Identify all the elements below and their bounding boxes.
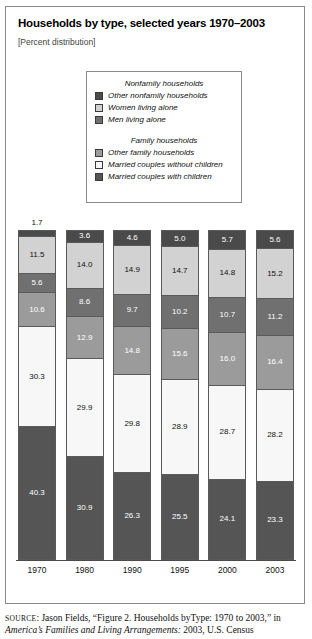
bar-segment-value: 29.8 <box>124 420 140 428</box>
bar-segment[interactable]: 15.6 <box>162 329 198 380</box>
bar-column-2000[interactable]: 5.714.810.716.028.724.1 <box>208 230 246 560</box>
bar-segment[interactable]: 16.4 <box>257 336 293 390</box>
stacked-bar[interactable]: 4.614.99.714.829.826.3 <box>113 230 151 560</box>
chart-plot-area: 1.711.55.610.630.340.33.614.08.612.929.9… <box>18 212 294 562</box>
bar-segment[interactable]: 5.0 <box>162 231 198 247</box>
bar-segment[interactable]: 5.6 <box>257 231 293 249</box>
bar-segment[interactable]: 4.6 <box>114 231 150 246</box>
bar-segment[interactable]: 9.7 <box>114 295 150 327</box>
bar-segment-value: 11.5 <box>30 251 45 259</box>
bar-column-1980[interactable]: 3.614.08.612.929.930.9 <box>66 230 104 560</box>
bar-segment-value: 14.9 <box>124 266 140 274</box>
bar-segment[interactable]: 10.7 <box>209 298 245 333</box>
bar-segment-value: 14.7 <box>172 267 188 275</box>
bar-segment[interactable]: 28.7 <box>209 386 245 480</box>
legend-item-label: Women living alone <box>108 103 178 113</box>
legend-item-label: Other family households <box>108 148 194 158</box>
bar-segment[interactable]: 26.3 <box>114 473 150 559</box>
source-note: SOURCE: Jason Fields, “Figure 2. Househo… <box>5 613 307 636</box>
legend-swatch-icon <box>95 173 103 181</box>
bar-segment[interactable]: 25.5 <box>162 475 198 559</box>
bar-segment[interactable]: 10.6 <box>19 293 55 328</box>
figure-subtitle: [Percent distribution] <box>18 37 95 47</box>
stacked-bar[interactable]: 11.55.610.630.340.3 <box>18 230 56 560</box>
bar-segment[interactable]: 5.7 <box>209 231 245 250</box>
source-publication-title: America’s Families and Living Arrangemen… <box>5 625 181 635</box>
bar-segment[interactable]: 29.8 <box>114 375 150 473</box>
bar-segment-value: 28.7 <box>220 428 236 436</box>
bar-segment[interactable]: 30.9 <box>67 457 103 558</box>
bar-segment[interactable]: 24.1 <box>209 480 245 559</box>
x-axis-tick-label: 1995 <box>161 565 199 575</box>
legend-item-label: Men living alone <box>108 115 166 125</box>
bar-segment-value: 30.3 <box>29 373 45 381</box>
bar-segment[interactable]: 16.0 <box>209 333 245 385</box>
bar-segment[interactable]: 8.6 <box>67 289 103 317</box>
legend-swatch-icon <box>95 104 103 112</box>
bar-column-1995[interactable]: 5.014.710.215.628.925.5 <box>161 230 199 560</box>
bar-segment-value: 3.6 <box>79 232 90 240</box>
legend-swatch-icon <box>95 149 103 157</box>
bar-segment-value: 26.3 <box>124 512 140 520</box>
bar-segment-value: 16.4 <box>267 358 283 366</box>
legend-item[interactable]: Other nonfamily households <box>95 91 241 101</box>
bar-segment[interactable]: 3.6 <box>67 231 103 243</box>
legend-swatch-icon <box>95 116 103 124</box>
bar-segment-value: 10.2 <box>172 308 188 316</box>
legend-swatch-icon <box>95 92 103 100</box>
bar-column-1970[interactable]: 1.711.55.610.630.340.3 <box>18 230 56 560</box>
x-axis-tick-label: 2003 <box>256 565 294 575</box>
bar-segment[interactable]: 11.2 <box>257 299 293 336</box>
bar-segment-value: 5.6 <box>31 279 42 287</box>
bar-segment-value: 4.6 <box>127 234 138 242</box>
legend-item-label: Other nonfamily households <box>108 91 208 101</box>
bar-segment-value: 14.8 <box>220 269 236 277</box>
bar-segment-value: 40.3 <box>29 489 45 497</box>
stacked-bar[interactable]: 5.615.211.216.428.223.3 <box>256 230 294 560</box>
bar-column-2003[interactable]: 5.615.211.216.428.223.3 <box>256 230 294 560</box>
source-line-1: : Jason Fields, “Figure 2. Households by… <box>36 613 280 623</box>
bar-segment-value: 14.0 <box>77 261 93 269</box>
bar-segment-value-outside: 1.7 <box>18 218 56 227</box>
x-axis-line <box>16 560 296 561</box>
x-axis-labels: 197019801990199520002003 <box>18 565 294 575</box>
bar-segment-value: 5.7 <box>222 236 233 244</box>
bar-column-1990[interactable]: 4.614.99.714.829.826.3 <box>113 230 151 560</box>
bar-segment[interactable]: 30.3 <box>19 327 55 426</box>
bar-segment[interactable]: 28.9 <box>162 380 198 475</box>
bar-segment[interactable]: 14.9 <box>114 246 150 295</box>
bar-group: 1.711.55.610.630.340.33.614.08.612.929.9… <box>18 230 294 560</box>
bar-segment-value: 10.6 <box>29 306 45 314</box>
legend-item[interactable]: Women living alone <box>95 103 241 113</box>
bar-segment[interactable]: 14.7 <box>162 247 198 295</box>
source-line-2-rest: 2003, U.S. Census <box>181 625 254 635</box>
bar-segment[interactable]: 28.2 <box>257 390 293 482</box>
source-prefix: SOURCE <box>5 614 36 623</box>
bar-segment[interactable]: 11.5 <box>19 237 55 275</box>
legend-item[interactable]: Men living alone <box>95 115 241 125</box>
stacked-bar[interactable]: 3.614.08.612.929.930.9 <box>66 230 104 560</box>
bar-segment-value: 10.7 <box>220 311 236 319</box>
bar-segment-value: 23.3 <box>267 516 283 524</box>
legend-item[interactable]: Married couples without children <box>95 160 241 170</box>
stacked-bar[interactable]: 5.014.710.215.628.925.5 <box>161 230 199 560</box>
legend-item[interactable]: Other family households <box>95 148 241 158</box>
bar-segment-value: 8.6 <box>79 298 90 306</box>
bar-segment[interactable]: 29.9 <box>67 359 103 457</box>
bar-segment[interactable]: 14.8 <box>209 250 245 299</box>
bar-segment-value: 29.9 <box>77 404 93 412</box>
bar-segment[interactable]: 15.2 <box>257 249 293 299</box>
bar-segment-value: 5.6 <box>269 236 280 244</box>
bar-segment[interactable]: 40.3 <box>19 427 55 559</box>
x-axis-tick-label: 1990 <box>113 565 151 575</box>
bar-segment-value: 24.1 <box>220 515 236 523</box>
bar-segment[interactable]: 23.3 <box>257 482 293 558</box>
legend-group-heading: Family households <box>87 135 241 146</box>
stacked-bar[interactable]: 5.714.810.716.028.724.1 <box>208 230 246 560</box>
legend-item[interactable]: Married couples with children <box>95 172 241 182</box>
bar-segment[interactable]: 12.9 <box>67 317 103 359</box>
bar-segment[interactable]: 5.6 <box>19 274 55 292</box>
bar-segment[interactable]: 14.8 <box>114 327 150 376</box>
bar-segment[interactable]: 14.0 <box>67 243 103 289</box>
bar-segment[interactable]: 10.2 <box>162 296 198 329</box>
